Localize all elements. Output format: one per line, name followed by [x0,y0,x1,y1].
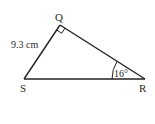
vertex-label-R: R [139,82,147,94]
vertex-label-S: S [20,82,26,94]
side-SQ [24,25,60,79]
triangle-diagram: Q S R 9.3 cm 16° [0,0,155,124]
side-length-label: 9.3 cm [11,39,38,50]
angle-label-R: 16° [114,68,128,79]
side-QR [60,25,145,79]
vertex-label-Q: Q [55,11,63,23]
